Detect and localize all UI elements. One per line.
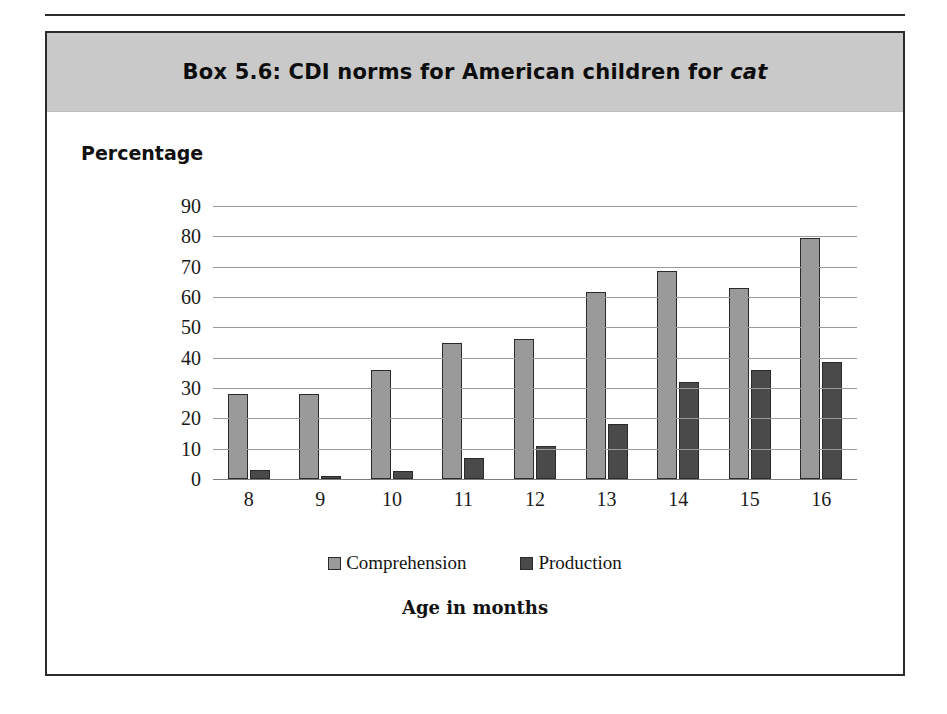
y-axis-title: Percentage — [81, 142, 203, 164]
bars-layer — [213, 206, 857, 479]
axis-baseline — [213, 479, 857, 480]
legend-item-production: Production — [520, 552, 621, 574]
bar-group — [285, 206, 357, 479]
gridline — [213, 267, 857, 268]
x-axis-tick-labels: 8910111213141516 — [213, 488, 857, 511]
figure-box: Box 5.6: CDI norms for American children… — [45, 31, 905, 676]
bar-production-15 — [751, 370, 771, 479]
x-tick-label: 9 — [285, 488, 357, 511]
bar-comprehension-13 — [586, 292, 606, 479]
bar-production-12 — [536, 446, 556, 479]
y-tick-label: 60 — [181, 287, 201, 307]
gridline — [213, 449, 857, 450]
chart-legend: ComprehensionProduction — [47, 552, 903, 574]
x-tick-label: 11 — [428, 488, 500, 511]
bar-group — [499, 206, 571, 479]
legend-swatch-comprehension-icon — [328, 557, 341, 570]
legend-item-comprehension: Comprehension — [328, 552, 466, 574]
bar-group — [428, 206, 500, 479]
y-tick-label: 0 — [191, 469, 201, 489]
gridline — [213, 418, 857, 419]
y-tick-label: 10 — [181, 439, 201, 459]
x-axis-title: Age in months — [47, 597, 903, 618]
page-top-rule — [45, 14, 905, 16]
gridline — [213, 388, 857, 389]
bar-comprehension-15 — [729, 288, 749, 479]
y-tick-label: 50 — [181, 317, 201, 337]
x-tick-label: 8 — [213, 488, 285, 511]
plot-area — [213, 206, 857, 479]
bar-group — [213, 206, 285, 479]
y-tick-label: 40 — [181, 348, 201, 368]
bar-production-16 — [822, 362, 842, 479]
bar-group — [714, 206, 786, 479]
legend-label: Production — [538, 552, 621, 574]
x-tick-label: 15 — [714, 488, 786, 511]
x-tick-label: 16 — [786, 488, 858, 511]
bar-production-13 — [608, 424, 628, 479]
y-tick-label: 90 — [181, 196, 201, 216]
gridline — [213, 327, 857, 328]
bar-production-8 — [250, 470, 270, 479]
bar-group — [356, 206, 428, 479]
y-tick-label: 70 — [181, 257, 201, 277]
gridline — [213, 358, 857, 359]
y-tick-label: 30 — [181, 378, 201, 398]
bar-group — [642, 206, 714, 479]
y-tick-label: 80 — [181, 226, 201, 246]
bar-comprehension-9 — [299, 394, 319, 479]
bar-production-10 — [393, 471, 413, 479]
bar-group — [571, 206, 643, 479]
bar-comprehension-11 — [442, 343, 462, 480]
y-tick-label: 20 — [181, 408, 201, 428]
bar-comprehension-12 — [514, 339, 534, 479]
x-tick-label: 12 — [499, 488, 571, 511]
bar-comprehension-10 — [371, 370, 391, 479]
chart: 9080706050403020100 8910111213141516 — [157, 206, 857, 496]
bar-production-11 — [464, 458, 484, 479]
bar-production-14 — [679, 382, 699, 479]
x-tick-label: 14 — [642, 488, 714, 511]
figure-box-body: Percentage 9080706050403020100 891011121… — [47, 112, 903, 674]
gridline — [213, 297, 857, 298]
legend-label: Comprehension — [346, 552, 466, 574]
figure-title-prefix: Box 5.6: CDI norms for American children… — [183, 60, 731, 84]
x-tick-label: 10 — [356, 488, 428, 511]
gridline — [213, 236, 857, 237]
figure-title: Box 5.6: CDI norms for American children… — [183, 60, 768, 84]
legend-swatch-production-icon — [520, 557, 533, 570]
x-tick-label: 13 — [571, 488, 643, 511]
bar-group — [786, 206, 858, 479]
figure-box-header: Box 5.6: CDI norms for American children… — [47, 33, 903, 112]
y-axis-tick-labels: 9080706050403020100 — [157, 206, 201, 479]
gridline — [213, 206, 857, 207]
bar-comprehension-8 — [228, 394, 248, 479]
figure-title-italic-word: cat — [730, 60, 767, 84]
